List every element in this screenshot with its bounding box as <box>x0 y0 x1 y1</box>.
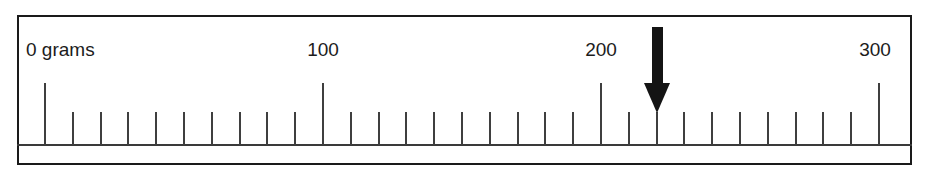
scale-figure: 0 grams 100 200 300 <box>0 0 929 178</box>
tick-minor <box>489 112 491 145</box>
tick-minor <box>683 112 685 145</box>
tick-minor <box>711 112 713 145</box>
tick-minor <box>656 112 658 145</box>
tick-minor <box>767 112 769 145</box>
tick-minor <box>350 112 352 145</box>
tick-minor <box>294 112 296 145</box>
tick-marks-group <box>0 0 929 178</box>
tick-minor <box>850 112 852 145</box>
tick-minor <box>572 112 574 145</box>
tick-minor <box>183 112 185 145</box>
tick-label-100: 100 <box>307 40 339 59</box>
tick-minor <box>517 112 519 145</box>
tick-minor <box>72 112 74 145</box>
tick-label-200: 200 <box>585 40 617 59</box>
tick-minor <box>155 112 157 145</box>
tick-major <box>44 83 46 145</box>
pointer-arrow-head <box>644 83 670 113</box>
tick-minor <box>211 112 213 145</box>
tick-minor <box>544 112 546 145</box>
tick-minor <box>378 112 380 145</box>
tick-minor <box>739 112 741 145</box>
tick-major <box>600 83 602 145</box>
tick-minor <box>100 112 102 145</box>
tick-major <box>878 83 880 145</box>
tick-minor <box>461 112 463 145</box>
tick-minor <box>628 112 630 145</box>
tick-label-0: 0 grams <box>26 40 95 59</box>
tick-minor <box>266 112 268 145</box>
tick-minor <box>433 112 435 145</box>
tick-minor <box>795 112 797 145</box>
pointer-arrow-shaft <box>652 27 663 85</box>
tick-major <box>322 83 324 145</box>
tick-minor <box>239 112 241 145</box>
tick-minor <box>822 112 824 145</box>
tick-label-300: 300 <box>859 40 891 59</box>
tick-minor <box>405 112 407 145</box>
tick-minor <box>127 112 129 145</box>
